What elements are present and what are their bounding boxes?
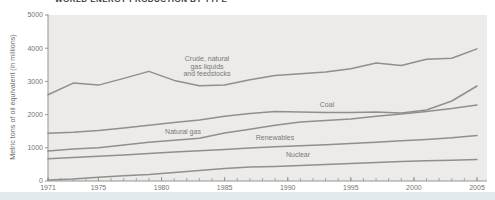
x-tick-label: 1980 (154, 184, 170, 191)
x-tick-label: 1995 (343, 184, 359, 191)
x-tick-label: 1971 (40, 184, 56, 191)
y-tick-label: 3000 (27, 78, 43, 85)
x-tick-label: 1975 (91, 184, 107, 191)
x-tick-label: 1990 (280, 184, 296, 191)
series-label-nuclear: Nuclear (286, 151, 311, 158)
footer-strip (0, 192, 495, 200)
series-label-natural-gas: Natural gas (165, 128, 201, 136)
y-tick-label: 5000 (27, 11, 43, 18)
x-tick-label: 2005 (469, 184, 485, 191)
energy-production-figure: WORLD ENERGY PRODUCTION BY TYPE Metric t… (0, 0, 495, 200)
y-tick-label: 4000 (27, 45, 43, 52)
x-tick-label: 1985 (217, 184, 233, 191)
x-tick-label: 2000 (406, 184, 422, 191)
line-chart-canvas: 0100020003000400050001971197519801985199… (0, 0, 495, 200)
series-label-coal: Coal (320, 101, 335, 108)
y-tick-label: 2000 (27, 111, 43, 118)
series-label-renewables: Renewables (256, 134, 295, 141)
y-tick-label: 1000 (27, 144, 43, 151)
